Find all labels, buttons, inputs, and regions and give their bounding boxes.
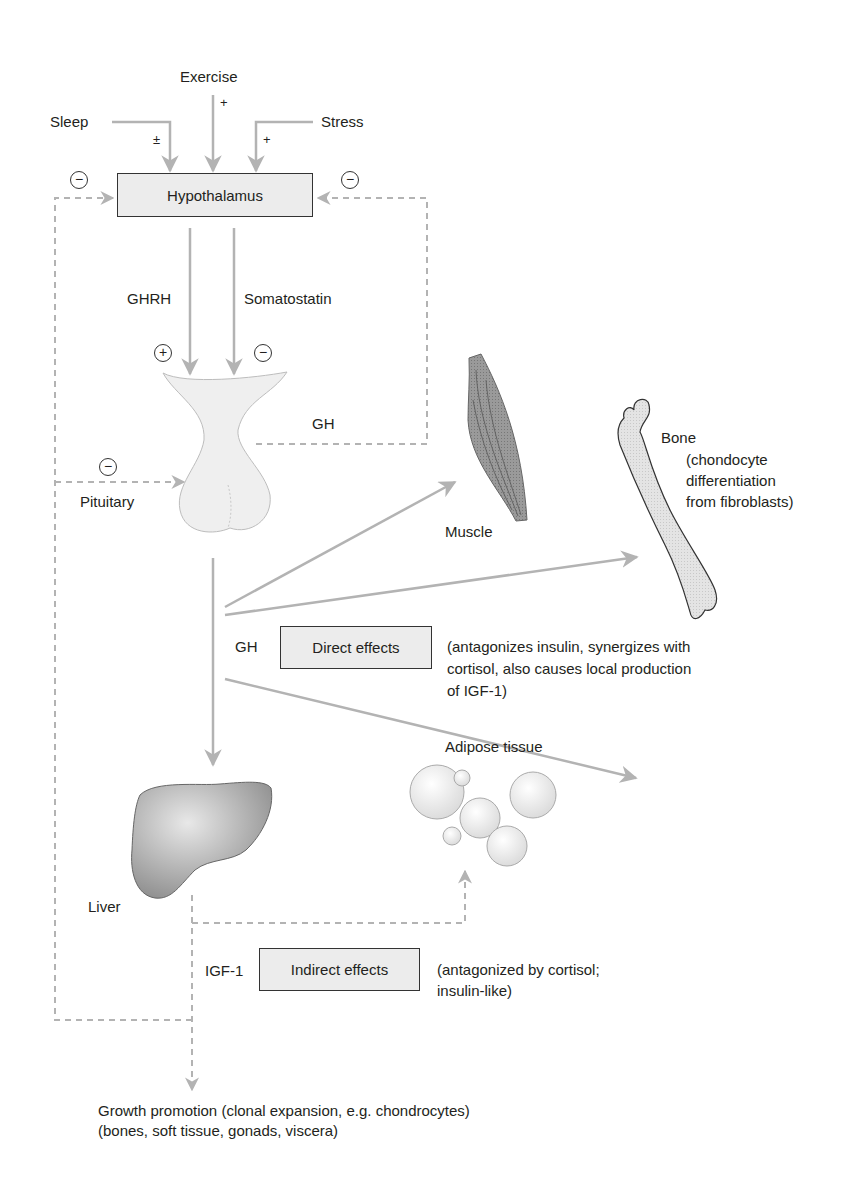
adipose-label: Adipose tissue bbox=[445, 736, 543, 757]
sleep-effect: ± bbox=[153, 133, 160, 147]
liver-shape bbox=[132, 782, 272, 898]
direct-note-line-2: cortisol, also causes local production bbox=[447, 658, 691, 679]
indirect-note-line-2: insulin-like) bbox=[437, 980, 512, 1001]
outcome-line-1: Growth promotion (clonal expansion, e.g.… bbox=[98, 1100, 470, 1121]
gh-feedback-label: GH bbox=[312, 413, 335, 434]
adipose-shape bbox=[410, 765, 556, 866]
pituitary-label: Pituitary bbox=[80, 491, 134, 512]
outcome-line-2: (bones, soft tissue, gonads, viscera) bbox=[98, 1120, 338, 1141]
exercise-label: Exercise bbox=[180, 66, 238, 87]
direct-hormone-label: GH bbox=[235, 636, 258, 657]
indirect-note-line-1: (antagonized by cortisol; bbox=[437, 959, 600, 980]
plus-icon: + bbox=[154, 344, 172, 362]
direct-note-line-3: of IGF-1) bbox=[447, 680, 507, 701]
ghrh-label: GHRH bbox=[127, 288, 171, 309]
minus-icon: − bbox=[341, 171, 359, 189]
sleep-arrow bbox=[112, 122, 170, 171]
igf1-feedback-hypothalamus bbox=[55, 198, 192, 1020]
direct-note-line-1: (antagonizes insulin, synergizes with bbox=[447, 636, 690, 657]
exercise-effect: + bbox=[220, 96, 228, 110]
muscle-label: Muscle bbox=[445, 521, 493, 542]
bone-note-line-1: (chondocyte bbox=[686, 449, 768, 470]
indirect-effects-box: Indirect effects bbox=[259, 948, 420, 991]
gh-to-bone-arrow bbox=[225, 557, 637, 615]
bone-label: Bone bbox=[661, 427, 696, 448]
liver-label: Liver bbox=[88, 896, 121, 917]
sleep-label: Sleep bbox=[50, 111, 88, 132]
somatostatin-label: Somatostatin bbox=[244, 288, 332, 309]
igf1-to-adipose-arrow bbox=[192, 871, 465, 923]
indirect-hormone-label: IGF-1 bbox=[205, 960, 243, 981]
stress-effect: + bbox=[263, 133, 271, 147]
stress-label: Stress bbox=[321, 111, 364, 132]
bone-note-line-3: from fibroblasts) bbox=[686, 491, 794, 512]
pituitary-shape bbox=[163, 372, 287, 532]
muscle-shape bbox=[468, 354, 527, 521]
direct-effects-box: Direct effects bbox=[280, 626, 432, 669]
minus-icon: − bbox=[70, 171, 88, 189]
hypothalamus-box: Hypothalamus bbox=[117, 173, 313, 217]
minus-icon: − bbox=[99, 458, 117, 476]
gh-feedback-hypothalamus bbox=[256, 198, 427, 444]
gh-to-adipose-arrow bbox=[225, 679, 636, 778]
bone-note-line-2: differentiation bbox=[686, 470, 776, 491]
minus-icon: − bbox=[254, 344, 272, 362]
